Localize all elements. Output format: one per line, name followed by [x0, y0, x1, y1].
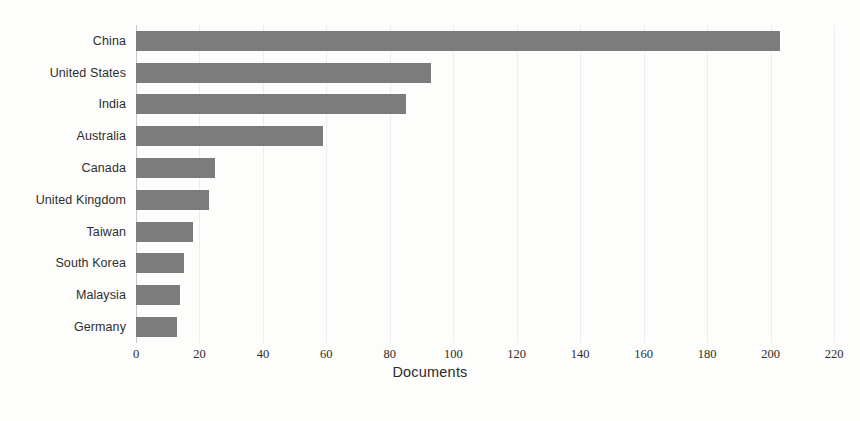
bar [136, 63, 431, 83]
bar-chart: ChinaUnited StatesIndiaAustraliaCanadaUn… [0, 0, 860, 421]
category-label: United States [0, 66, 126, 80]
bar-row: South Korea [0, 248, 860, 280]
bar-track [136, 216, 193, 248]
category-label: Germany [0, 320, 126, 334]
bar [136, 126, 323, 146]
bar [136, 253, 184, 273]
bar-row: United Kingdom [0, 184, 860, 216]
x-tick-label: 180 [698, 347, 717, 362]
bar [136, 190, 209, 210]
bar-track [136, 152, 215, 184]
bar-track [136, 311, 177, 343]
bar-track [136, 184, 209, 216]
category-label: India [0, 97, 126, 111]
category-label: Canada [0, 161, 126, 175]
x-tick-label: 160 [634, 347, 653, 362]
x-tick-label: 60 [320, 347, 333, 362]
x-tick-label: 200 [761, 347, 780, 362]
x-tick-label: 140 [571, 347, 590, 362]
x-axis: 020406080100120140160180200220 [136, 343, 834, 344]
bar-track [136, 25, 780, 57]
category-label: United Kingdom [0, 193, 126, 207]
x-tick-label: 100 [444, 347, 463, 362]
bar [136, 31, 780, 51]
category-label: Australia [0, 129, 126, 143]
figure-container: ChinaUnited StatesIndiaAustraliaCanadaUn… [0, 0, 860, 421]
category-label: Taiwan [0, 225, 126, 239]
category-label: South Korea [0, 256, 126, 270]
x-tick-label: 220 [825, 347, 844, 362]
bar [136, 222, 193, 242]
bar-row: Malaysia [0, 279, 860, 311]
bar-row: Canada [0, 152, 860, 184]
bar-track [136, 279, 180, 311]
bar [136, 285, 180, 305]
x-tick-label: 80 [384, 347, 397, 362]
x-tick-label: 20 [193, 347, 206, 362]
bar-track [136, 89, 406, 121]
category-label: Malaysia [0, 288, 126, 302]
x-tick-label: 120 [507, 347, 526, 362]
bar-track [136, 248, 184, 280]
figure-caption [120, 408, 780, 421]
bar-row: China [0, 25, 860, 57]
bar-row: Australia [0, 120, 860, 152]
bar-track [136, 120, 323, 152]
bar [136, 158, 215, 178]
category-label: China [0, 34, 126, 48]
x-tick-label: 0 [133, 347, 139, 362]
x-tick-label: 40 [257, 347, 270, 362]
bar-rows: ChinaUnited StatesIndiaAustraliaCanadaUn… [0, 25, 860, 343]
bar [136, 94, 406, 114]
x-axis-title: Documents [0, 364, 860, 380]
bar [136, 317, 177, 337]
bar-row: Taiwan [0, 216, 860, 248]
bar-track [136, 57, 431, 89]
bar-row: Germany [0, 311, 860, 343]
bar-row: United States [0, 57, 860, 89]
bar-row: India [0, 89, 860, 121]
